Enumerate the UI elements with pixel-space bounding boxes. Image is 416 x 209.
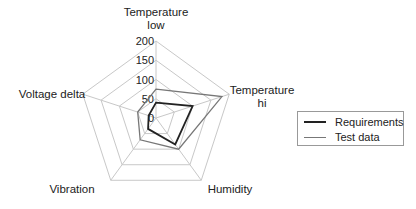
radar-chart: 050100150200TemperaturelowTemperaturehiH… <box>0 0 416 209</box>
legend-swatch-test-data <box>304 137 326 138</box>
axis-label: Voltage delta <box>19 88 86 100</box>
legend-item-requirements: Requirements <box>304 115 403 129</box>
radial-tick-label: 150 <box>136 54 154 66</box>
radar-plot: 050100150200TemperaturelowTemperaturehiH… <box>0 0 416 209</box>
axis-label: Humidity <box>208 183 253 195</box>
legend-item-test-data: Test data <box>304 130 380 144</box>
axis-label: hi <box>258 97 267 109</box>
axis-label: Vibration <box>49 183 94 195</box>
legend: Requirements Test data <box>297 111 404 146</box>
axis-label: Temperature <box>124 6 189 18</box>
legend-label: Requirements <box>335 116 403 128</box>
radial-tick-label: 100 <box>136 74 154 86</box>
legend-swatch-requirements <box>304 121 326 123</box>
radial-tick-label: 200 <box>136 35 154 47</box>
axis-label: low <box>147 19 165 31</box>
axis-label: Temperature <box>230 84 295 96</box>
legend-label: Test data <box>335 131 380 143</box>
